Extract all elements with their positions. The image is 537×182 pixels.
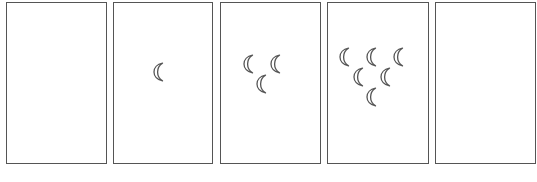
panel-3 (220, 2, 321, 164)
crescent-moon-icon (242, 54, 256, 74)
panel-5 (435, 2, 536, 164)
crescent-moon-icon (152, 62, 166, 82)
crescent-moon-icon (338, 47, 352, 67)
panel-2 (113, 2, 213, 164)
panel-4 (327, 2, 429, 164)
crescent-moon-icon (392, 47, 406, 67)
crescent-moon-icon (269, 54, 283, 74)
panel-1 (6, 2, 107, 164)
crescent-moon-icon (255, 74, 269, 94)
crescent-moon-icon (365, 47, 379, 67)
crescent-moon-icon (352, 67, 366, 87)
crescent-moon-icon (379, 67, 393, 87)
crescent-moon-icon (365, 87, 379, 107)
